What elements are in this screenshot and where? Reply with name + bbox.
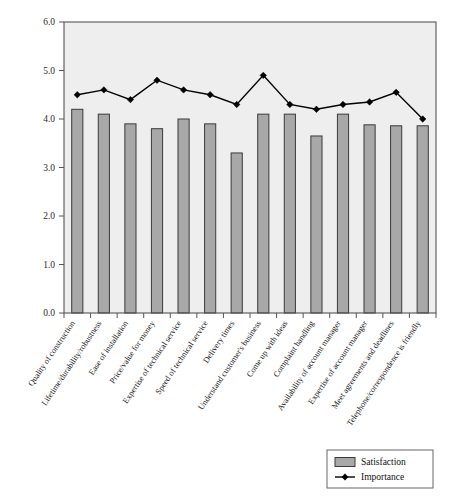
bar-satisfaction	[151, 129, 162, 313]
bar-satisfaction	[337, 114, 348, 313]
bar-satisfaction	[125, 124, 136, 313]
satisfaction-importance-chart: 0.01.02.03.04.05.06.0 Quality of constru…	[0, 0, 470, 498]
x-axis-category-label: Speed of technical service	[154, 319, 210, 396]
x-axis-tick-group	[64, 313, 436, 318]
bar-satisfaction	[311, 136, 322, 313]
y-axis-tick-label: 3.0	[43, 163, 55, 173]
bar-satisfaction	[231, 153, 242, 313]
x-axis-category-label: Quality of construction	[26, 318, 77, 388]
bar-satisfaction	[72, 109, 83, 313]
y-axis-tick-label: 5.0	[43, 66, 55, 76]
plot-background	[64, 22, 436, 313]
y-axis-tick-label: 6.0	[43, 17, 55, 27]
bar-satisfaction	[391, 126, 402, 313]
bar-satisfaction	[417, 126, 428, 313]
y-axis-tick-label: 2.0	[43, 211, 55, 221]
bar-satisfaction	[364, 125, 375, 313]
y-axis-tick-label: 0.0	[43, 308, 55, 318]
x-axis-category-labels: Quality of constructionLifetime/durabili…	[26, 318, 422, 427]
bar-satisfaction	[284, 114, 295, 313]
y-axis-tick-label: 1.0	[43, 260, 55, 270]
bar-satisfaction	[205, 124, 216, 313]
bar-satisfaction	[178, 119, 189, 313]
bar-satisfaction	[258, 114, 269, 313]
chart-legend: SatisfactionImportance	[327, 450, 433, 488]
chart-container: 0.01.02.03.04.05.06.0 Quality of constru…	[0, 0, 470, 498]
legend-label-importance: Importance	[361, 472, 404, 482]
plot-area-background	[64, 22, 436, 313]
y-axis-tick-group: 0.01.02.03.04.05.06.0	[43, 17, 64, 318]
legend-label-satisfaction: Satisfaction	[361, 457, 406, 467]
legend-swatch-satisfaction	[335, 458, 355, 467]
y-axis-tick-label: 4.0	[43, 114, 55, 124]
bar-satisfaction	[98, 114, 109, 313]
